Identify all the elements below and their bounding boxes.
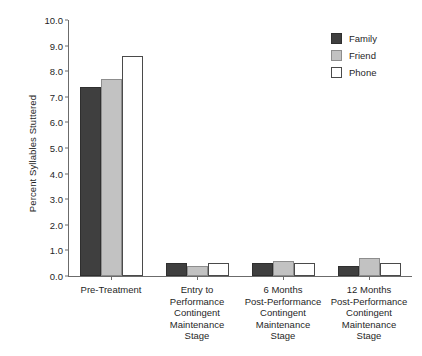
bar-family xyxy=(252,263,273,276)
legend-label: Phone xyxy=(349,67,376,78)
legend-swatch-phone xyxy=(331,67,342,78)
bar-group xyxy=(154,20,240,276)
bar-phone xyxy=(122,56,143,276)
x-tick-mark xyxy=(283,276,284,280)
legend-item-phone: Phone xyxy=(331,67,377,78)
x-axis-line xyxy=(68,276,412,277)
bar-friend xyxy=(273,261,294,276)
bar-group-bars xyxy=(240,20,326,276)
bar-friend xyxy=(101,79,122,276)
legend-item-friend: Friend xyxy=(331,50,377,61)
bar-phone xyxy=(380,263,401,276)
x-axis-label: 12 MonthsPost-PerformanceContingentMaint… xyxy=(315,284,422,342)
x-axis-label-line: 12 Months xyxy=(315,284,422,296)
bar-family xyxy=(338,266,359,276)
bar-group-bars xyxy=(68,20,154,276)
x-axis-label-line: Stage xyxy=(315,330,422,342)
x-tick-mark xyxy=(197,276,198,280)
bar-family xyxy=(166,263,187,276)
bar-family xyxy=(80,87,101,276)
bar-phone xyxy=(208,263,229,276)
bar-friend xyxy=(187,266,208,276)
bar-friend xyxy=(359,258,380,276)
bar-chart: Percent Syllables Stuttered 10.09.08.07.… xyxy=(0,0,422,356)
bar-group-bars xyxy=(154,20,240,276)
bar-group xyxy=(240,20,326,276)
x-tick-mark xyxy=(111,276,112,280)
y-axis-title: Percent Syllables Stuttered xyxy=(27,59,38,249)
x-tick-mark xyxy=(369,276,370,280)
legend: FamilyFriendPhone xyxy=(331,33,377,78)
legend-label: Friend xyxy=(349,50,376,61)
x-axis-label-line: Post-Performance xyxy=(315,296,422,308)
bar-phone xyxy=(294,263,315,276)
x-axis-label-line: Contingent xyxy=(315,307,422,319)
legend-swatch-friend xyxy=(331,50,342,61)
legend-swatch-family xyxy=(331,33,342,44)
x-axis-label-line: Maintenance xyxy=(315,319,422,331)
bar-group xyxy=(68,20,154,276)
legend-item-family: Family xyxy=(331,33,377,44)
legend-label: Family xyxy=(349,33,377,44)
